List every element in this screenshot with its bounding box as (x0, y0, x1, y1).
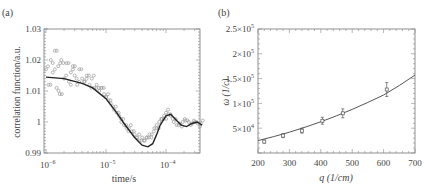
data-point (80, 68, 83, 71)
figure: (a) 1.03 1.02 1.01 1 0.99 10−6 10−5 10−4… (0, 0, 429, 191)
xtick-label: 700 (408, 158, 422, 168)
data-point (129, 124, 132, 127)
panel-b: (b) 2.5×105 2×105 1.5×105 1×105 5×104 20… (218, 7, 422, 184)
panel-b-fit-curve (258, 75, 415, 141)
data-point (87, 74, 90, 77)
data-point-with-errorbar (263, 140, 266, 143)
panel-a-yticklabels: 1.03 1.02 1.01 1 0.99 (25, 24, 41, 158)
data-point-with-errorbar (300, 128, 303, 133)
data-point (51, 71, 54, 74)
data-point (69, 71, 72, 74)
data-point (49, 59, 52, 62)
data-point (51, 62, 54, 65)
data-point (73, 74, 76, 77)
panel-a-fit-curve (46, 77, 202, 147)
data-point (59, 62, 62, 65)
data-point (201, 119, 204, 122)
panel-a-frame (44, 29, 200, 153)
data-point (75, 77, 78, 80)
ytick-label: 5×104 (232, 123, 254, 134)
panel-a-xticklabels: 10−6 10−5 10−4 (40, 159, 175, 170)
data-point (167, 108, 170, 111)
data-point (155, 124, 158, 127)
data-point (55, 49, 58, 52)
data-point (67, 62, 70, 65)
ytick-label: 1 (37, 117, 42, 127)
data-point (62, 62, 65, 65)
data-point (60, 59, 63, 62)
panel-a-xlabel: time/s (112, 173, 137, 184)
data-point (71, 68, 74, 71)
ytick-label: 2.5×105 (226, 23, 254, 34)
panel-b-ylabel: ω (1/c) (221, 78, 232, 105)
data-point (172, 121, 175, 124)
xtick-label: 500 (345, 158, 359, 168)
data-point (132, 130, 135, 133)
data-point (76, 83, 79, 86)
panel-a-data-points (45, 49, 205, 142)
data-point-with-errorbar (282, 134, 285, 138)
data-point (138, 133, 141, 136)
data-point-with-errorbar (341, 109, 344, 118)
data-point-with-errorbar (321, 117, 324, 124)
xtick-label: 10−5 (100, 159, 115, 170)
xtick-label: 600 (377, 158, 391, 168)
data-point (65, 74, 68, 77)
data-point (158, 121, 161, 124)
panel-a-tag: (a) (2, 7, 13, 19)
panel-a-ylabel: correlation function/a.u. (12, 46, 22, 138)
xtick-label: 10−4 (160, 159, 175, 170)
data-point (103, 93, 106, 96)
xtick-label: 200 (251, 158, 265, 168)
data-point (114, 105, 117, 108)
data-point (81, 77, 84, 80)
data-point (95, 83, 98, 86)
data-point (53, 68, 56, 71)
panel-a-ticks (44, 29, 200, 153)
data-point-with-errorbar (385, 83, 388, 97)
data-point (60, 93, 63, 96)
data-point (47, 65, 50, 68)
data-point (152, 130, 155, 133)
ytick-label: 2×105 (232, 48, 254, 59)
ytick-label: 0.99 (25, 148, 41, 158)
ytick-label: 1×105 (232, 98, 254, 109)
ytick-label: 1.01 (25, 86, 41, 96)
data-point (73, 65, 76, 68)
ytick-label: 1.03 (25, 24, 41, 34)
panel-b-xlabel: q (1/cm) (319, 172, 353, 184)
data-point (141, 136, 144, 139)
panel-b-data-points (263, 83, 388, 144)
data-point (57, 89, 60, 92)
panel-b-xticklabels: 200 300 400 500 600 700 (251, 158, 422, 168)
xtick-label: 400 (314, 158, 328, 168)
data-point (49, 83, 52, 86)
xtick-label: 300 (283, 158, 297, 168)
data-point (85, 77, 88, 80)
data-point (107, 93, 110, 96)
data-point (57, 65, 60, 68)
data-point (69, 83, 72, 86)
data-point (90, 77, 93, 80)
data-point (109, 99, 112, 102)
data-point (55, 86, 58, 89)
panel-b-tag: (b) (218, 7, 230, 19)
panel-a: (a) 1.03 1.02 1.01 1 0.99 10−6 10−5 10−4… (2, 7, 204, 184)
data-point (92, 74, 95, 77)
ytick-label: 1.02 (25, 55, 41, 65)
xtick-label: 10−6 (40, 159, 55, 170)
